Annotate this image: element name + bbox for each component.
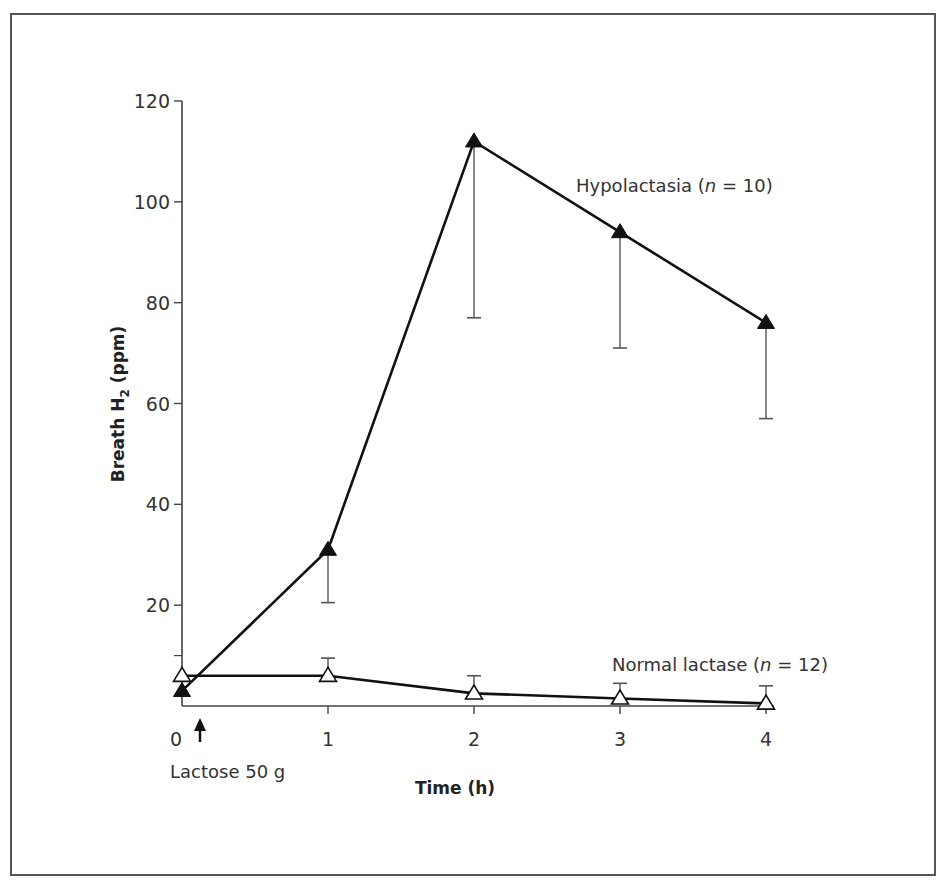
open-triangle-marker bbox=[174, 667, 191, 681]
up-arrow-icon bbox=[194, 718, 206, 742]
y-tick-label: 40 bbox=[146, 493, 170, 515]
lactose-dose-annotation: Lactose 50 g bbox=[170, 761, 285, 782]
label-text: Normal lactase ( bbox=[612, 654, 760, 675]
x-tick-label: 2 bbox=[468, 728, 480, 750]
x-tick-label: 0 bbox=[170, 728, 182, 750]
x-tick-label: 3 bbox=[614, 728, 626, 750]
x-tick-label: 1 bbox=[322, 728, 334, 750]
series-layer bbox=[174, 133, 775, 709]
x-tick-label: 4 bbox=[760, 728, 772, 750]
label-count: = 12) bbox=[771, 654, 827, 675]
y-axis-title-main: Breath H bbox=[108, 398, 128, 483]
series-label-hypolactasia: Hypolactasia (n = 10) bbox=[576, 175, 773, 196]
y-axis-title-unit: (ppm) bbox=[108, 326, 128, 390]
y-tick-label: 20 bbox=[146, 594, 170, 616]
y-axis-title: Breath H2 (ppm) bbox=[108, 326, 132, 483]
filled-triangle-marker bbox=[466, 133, 483, 147]
series-hypolactasia bbox=[174, 133, 775, 697]
filled-triangle-marker bbox=[320, 541, 337, 555]
y-tick-label: 60 bbox=[146, 393, 170, 415]
series-label-normal-lactase: Normal lactase (n = 12) bbox=[612, 654, 828, 675]
label-n: n bbox=[760, 654, 771, 675]
y-tick-label: 120 bbox=[134, 90, 170, 112]
label-n: n bbox=[705, 175, 716, 196]
y-axis-title-subscript: 2 bbox=[118, 389, 132, 397]
breath-hydrogen-chart: 2040608010012001234 Time (h) Breath H2 (… bbox=[0, 0, 952, 896]
filled-triangle-marker bbox=[612, 224, 629, 238]
label-count: = 10) bbox=[716, 175, 772, 196]
filled-triangle-marker bbox=[758, 314, 775, 328]
y-tick-label: 100 bbox=[134, 191, 170, 213]
y-tick-label: 80 bbox=[146, 292, 170, 314]
labels-layer: Time (h) Breath H2 (ppm) Hypolactasia (n… bbox=[108, 175, 828, 798]
x-axis-title: Time (h) bbox=[415, 778, 495, 798]
label-text: Hypolactasia ( bbox=[576, 175, 705, 196]
open-triangle-marker bbox=[320, 667, 337, 681]
